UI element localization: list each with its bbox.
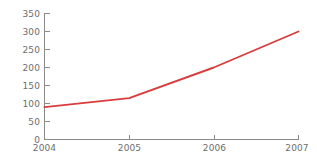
y-tick-label-300: 300 bbox=[23, 27, 41, 37]
y-tick-label-100: 100 bbox=[23, 99, 41, 109]
x-tick-label-2005: 2005 bbox=[118, 143, 141, 153]
chart-background bbox=[0, 0, 317, 161]
y-tick-label-250: 250 bbox=[23, 45, 41, 55]
y-tick-label-200: 200 bbox=[23, 63, 41, 73]
line-chart-figure: 0 50 100 150 200 250 300 350 2004 2005 2… bbox=[0, 0, 317, 161]
x-tick-label-2004: 2004 bbox=[33, 143, 56, 153]
x-tick-label-2007: 2007 bbox=[285, 143, 308, 153]
y-tick-label-350: 350 bbox=[23, 9, 41, 19]
x-tick-label-2006: 2006 bbox=[203, 143, 226, 153]
chart-canvas: 0 50 100 150 200 250 300 350 2004 2005 2… bbox=[0, 0, 317, 161]
y-tick-label-50: 50 bbox=[28, 117, 40, 127]
y-tick-label-150: 150 bbox=[23, 81, 41, 91]
